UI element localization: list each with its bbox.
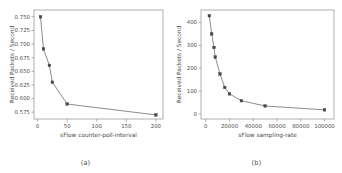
y-axis-title: Received Packets / Second xyxy=(176,26,182,103)
subcaption-a: (a) xyxy=(0,159,171,167)
plot-frame xyxy=(34,10,163,119)
x-tick-label: 80000 xyxy=(292,123,310,129)
series-line xyxy=(41,17,156,115)
y-tick-label: 0.725 xyxy=(15,27,30,33)
y-tick-label: 0.600 xyxy=(15,95,31,101)
series-line xyxy=(209,16,324,110)
chart-b-plot: 0100200300400020000400006000080000100000… xyxy=(171,0,342,150)
y-tick-label: 0.625 xyxy=(15,82,30,88)
y-tick-label: 0.750 xyxy=(15,14,31,20)
x-tick-label: 100000 xyxy=(314,123,335,129)
y-tick-label: 0.675 xyxy=(15,55,30,61)
data-point-marker xyxy=(264,105,267,108)
subcaption-b: (b) xyxy=(171,159,342,167)
data-point-marker xyxy=(240,99,243,102)
y-tick-label: 0 xyxy=(194,111,198,117)
data-point-marker xyxy=(210,33,213,36)
data-point-marker xyxy=(214,56,217,59)
data-point-marker xyxy=(51,81,54,84)
x-tick-label: 50 xyxy=(64,123,71,129)
data-point-marker xyxy=(219,73,222,76)
data-point-marker xyxy=(213,46,216,49)
y-tick-label: 200 xyxy=(187,65,198,71)
data-point-marker xyxy=(66,103,69,106)
x-tick-label: 20000 xyxy=(221,123,239,129)
x-axis-title: sFlow counter-poll-interval xyxy=(60,132,137,139)
data-point-marker xyxy=(228,93,231,96)
y-tick-label: 400 xyxy=(187,19,198,25)
x-tick-label: 200 xyxy=(151,123,162,129)
chart-panel-b: 0100200300400020000400006000080000100000… xyxy=(171,0,342,173)
chart-a-plot: 0.5750.6000.6250.6500.6750.7000.7250.750… xyxy=(0,0,171,150)
x-tick-label: 60000 xyxy=(268,123,286,129)
data-point-marker xyxy=(155,114,158,117)
x-tick-label: 0 xyxy=(204,123,208,129)
data-point-marker xyxy=(42,48,45,51)
x-tick-label: 150 xyxy=(121,123,132,129)
y-tick-label: 300 xyxy=(187,42,198,48)
y-axis-title: Received Packets / Second xyxy=(9,26,15,103)
x-tick-label: 100 xyxy=(92,123,103,129)
data-point-marker xyxy=(48,64,51,67)
data-point-marker xyxy=(208,14,211,17)
data-point-marker xyxy=(39,16,42,19)
y-tick-label: 0.700 xyxy=(15,41,31,47)
data-point-marker xyxy=(323,109,326,112)
x-tick-label: 0 xyxy=(36,123,40,129)
chart-panel-a: 0.5750.6000.6250.6500.6750.7000.7250.750… xyxy=(0,0,171,173)
plot-frame xyxy=(201,10,334,119)
y-tick-label: 100 xyxy=(187,88,198,94)
data-point-marker xyxy=(223,86,226,89)
y-tick-label: 0.575 xyxy=(15,109,30,115)
figure-container: 0.5750.6000.6250.6500.6750.7000.7250.750… xyxy=(0,0,342,173)
y-tick-label: 0.650 xyxy=(15,68,31,74)
x-axis-title: sFlow sampling-rate xyxy=(238,132,297,139)
x-tick-label: 40000 xyxy=(245,123,263,129)
